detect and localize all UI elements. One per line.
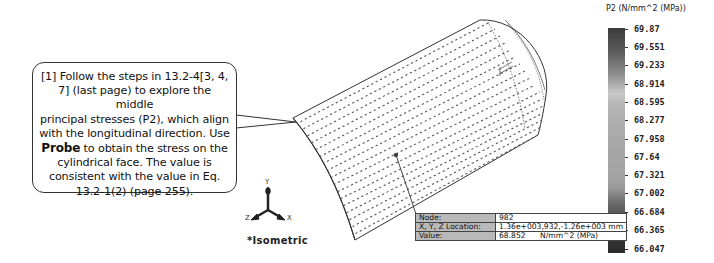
tick-mark <box>625 102 628 103</box>
tick-label: 68.277 <box>634 115 665 125</box>
instruction-callout: [1] Follow the steps in 13.2-4[3, 4, 7] … <box>32 62 237 193</box>
callout-line: with the longitudinal direction. Use <box>39 127 230 141</box>
callout-pointer <box>236 115 296 128</box>
tick-label: 67.002 <box>634 188 665 198</box>
tick-mark <box>625 120 628 121</box>
triad-z-label: Z <box>245 214 250 222</box>
tick-label: 68.914 <box>634 79 665 89</box>
legend-title: P2 (N/mm^2 (MPa)) <box>606 4 686 13</box>
tick-mark <box>625 157 628 158</box>
tick-mark <box>625 193 628 194</box>
tick-mark <box>625 175 628 176</box>
orientation-triad[interactable] <box>251 188 285 221</box>
probe-value-value: 68.852 N/mm^2 (MPa) <box>496 232 627 241</box>
tick-mark <box>625 84 628 85</box>
triad-x-label: X <box>287 214 292 222</box>
callout-line: Probe to obtain the stress on the <box>39 141 230 156</box>
cylinder-model[interactable] <box>293 20 547 240</box>
callout-line: consistent with the value in Eq. <box>39 170 230 184</box>
probe-keyword: Probe <box>41 141 80 155</box>
probe-value-label: Value: <box>416 232 496 241</box>
probe-result-table: Node: 982 X, Y, Z Location: 1.36e+003,93… <box>415 213 627 241</box>
callout-line: [1] Follow the steps in 13.2-4[3, 4, <box>39 70 230 84</box>
tick-label: 66.047 <box>634 244 665 254</box>
tick-mark <box>625 29 628 30</box>
tick-label: 67.64 <box>634 152 660 162</box>
table-row: Value: 68.852 N/mm^2 (MPa) <box>416 232 627 241</box>
tick-label: 67.958 <box>634 134 665 144</box>
tick-mark <box>625 65 628 66</box>
tick-mark <box>625 47 628 48</box>
tick-label: 69.87 <box>634 24 660 34</box>
triad-y-label: Y <box>265 178 269 186</box>
tick-label: 68.595 <box>634 97 665 107</box>
tick-label: 66.365 <box>634 225 665 235</box>
tick-label: 69.233 <box>634 60 665 70</box>
callout-line: 7] (last page) to explore the middle <box>39 84 230 112</box>
callout-line: cylindrical face. The value is <box>39 156 230 170</box>
tick-label: 67.321 <box>634 170 665 180</box>
callout-line-rest: to obtain the stress on the <box>80 142 228 155</box>
callout-line: 13.2-1(2) (page 255). <box>39 185 230 199</box>
tick-label: 66.684 <box>634 207 665 217</box>
callout-line: principal stresses (P2), which align <box>39 113 230 127</box>
view-orientation-label: *Isometric <box>247 235 308 246</box>
tick-mark <box>625 139 628 140</box>
tick-mark <box>625 249 628 250</box>
tick-label: 69.551 <box>634 42 665 52</box>
